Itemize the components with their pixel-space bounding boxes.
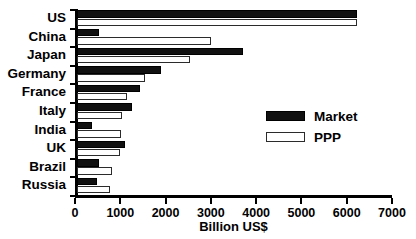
x-tick-label-3000: 3000 xyxy=(188,206,234,220)
bar-market-china xyxy=(77,29,99,36)
bar-market-italy xyxy=(77,103,132,110)
bar-group-brazil xyxy=(77,158,394,177)
bar-market-india xyxy=(77,122,92,129)
category-label-china: China xyxy=(0,28,70,47)
bar-ppp-russia xyxy=(77,186,110,193)
y-tick-3 xyxy=(70,65,75,67)
bar-market-germany xyxy=(77,66,161,73)
category-label-us: US xyxy=(0,9,70,28)
bar-ppp-uk xyxy=(77,149,120,156)
x-tick-label-6000: 6000 xyxy=(324,206,370,220)
bar-group-us xyxy=(77,9,394,28)
x-tick-label-7000: 7000 xyxy=(369,206,415,220)
category-label-japan: Japan xyxy=(0,46,70,65)
x-tick-label-1000: 1000 xyxy=(97,206,143,220)
x-tick-2000 xyxy=(165,198,167,204)
bar-ppp-france xyxy=(77,93,127,100)
bar-ppp-brazil xyxy=(77,167,112,174)
category-axis-labels: US China Japan Germany France Italy Indi… xyxy=(0,9,70,195)
bar-market-japan xyxy=(77,48,243,55)
bar-group-russia xyxy=(77,176,394,195)
legend-item-market: Market xyxy=(266,107,358,125)
chart-legend: Market PPP xyxy=(266,107,358,149)
legend-swatch-ppp-icon xyxy=(266,132,305,142)
bar-market-brazil xyxy=(77,159,99,166)
x-tick-6000 xyxy=(346,198,348,204)
bar-ppp-us xyxy=(77,19,357,26)
bar-market-uk xyxy=(77,141,125,148)
bar-market-us xyxy=(77,10,357,17)
bar-ppp-china xyxy=(77,37,211,44)
x-tick-5000 xyxy=(300,198,302,204)
category-label-italy: Italy xyxy=(0,102,70,121)
category-label-france: France xyxy=(0,83,70,102)
x-axis-title: Billion US$ xyxy=(75,219,392,234)
y-tick-5 xyxy=(70,102,75,104)
legend-label-ppp: PPP xyxy=(314,130,341,145)
y-tick-9 xyxy=(70,176,75,178)
plot-area: 01000200030004000500060007000 xyxy=(75,9,392,195)
y-tick-1 xyxy=(70,28,75,30)
y-tick-2 xyxy=(70,46,75,48)
x-tick-label-5000: 5000 xyxy=(278,206,324,220)
y-tick-4 xyxy=(70,83,75,85)
bar-ppp-india xyxy=(77,130,121,137)
x-tick-7000 xyxy=(391,198,393,204)
category-label-germany: Germany xyxy=(0,65,70,84)
y-tick-10 xyxy=(70,195,75,197)
legend-label-market: Market xyxy=(314,109,358,124)
y-tick-8 xyxy=(70,158,75,160)
bar-chart: US China Japan Germany France Italy Indi… xyxy=(0,0,416,239)
y-tick-7 xyxy=(70,139,75,141)
legend-item-ppp: PPP xyxy=(266,128,358,146)
category-label-india: India xyxy=(0,121,70,140)
x-tick-label-2000: 2000 xyxy=(143,206,189,220)
y-tick-6 xyxy=(70,121,75,123)
bar-group-japan xyxy=(77,46,394,65)
x-tick-4000 xyxy=(255,198,257,204)
x-tick-3000 xyxy=(210,198,212,204)
bar-group-china xyxy=(77,28,394,47)
bar-ppp-italy xyxy=(77,112,122,119)
x-tick-0 xyxy=(74,198,76,204)
bar-group-france xyxy=(77,83,394,102)
category-label-uk: UK xyxy=(0,139,70,158)
bar-ppp-germany xyxy=(77,74,145,81)
bar-ppp-japan xyxy=(77,56,190,63)
category-label-brazil: Brazil xyxy=(0,158,70,177)
bar-market-russia xyxy=(77,178,97,185)
category-label-russia: Russia xyxy=(0,176,70,195)
x-tick-label-0: 0 xyxy=(52,206,98,220)
x-tick-label-4000: 4000 xyxy=(233,206,279,220)
legend-swatch-market-icon xyxy=(266,111,305,121)
bar-market-france xyxy=(77,85,140,92)
x-tick-1000 xyxy=(119,198,121,204)
bar-group-germany xyxy=(77,65,394,84)
x-axis-line xyxy=(75,195,392,198)
y-tick-0 xyxy=(70,9,75,11)
